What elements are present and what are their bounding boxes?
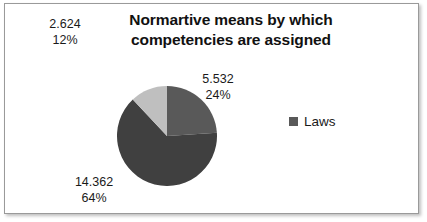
legend-swatch-icon: [289, 117, 298, 126]
chart-title-line-1: Normartive means by which: [101, 10, 361, 30]
pie-slice-0: [167, 86, 217, 136]
chart-title-line-2: competencies are assigned: [101, 30, 361, 50]
pie-label-slice-1-value: 5.532: [183, 71, 253, 87]
chart-frame: Normartive means by which competencies a…: [4, 3, 419, 214]
pie-label-slice-0: 2.624 12%: [35, 16, 95, 48]
legend-item-label: Laws: [304, 114, 336, 129]
legend: Laws: [289, 114, 336, 129]
pie-chart: [117, 86, 217, 186]
pie-label-slice-0-percent: 12%: [35, 32, 95, 48]
pie-label-slice-0-value: 2.624: [35, 16, 95, 32]
pie-chart-svg: [117, 86, 217, 186]
chart-title: Normartive means by which competencies a…: [101, 10, 361, 50]
pie-label-slice-2-percent: 64%: [53, 190, 135, 206]
